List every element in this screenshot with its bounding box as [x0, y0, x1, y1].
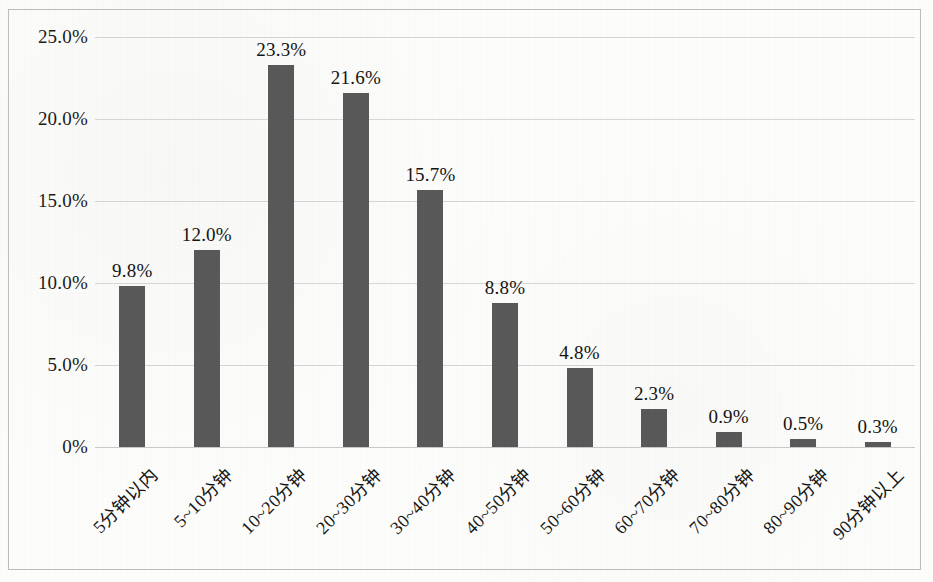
bar[interactable] — [716, 432, 742, 447]
y-axis-tick-label: 10.0% — [38, 272, 88, 294]
bar[interactable] — [268, 65, 294, 447]
x-axis-tick-label: 80~90分钟 — [756, 461, 834, 539]
bar-group[interactable]: 8.8% — [492, 37, 518, 447]
bar-group[interactable]: 23.3% — [268, 37, 294, 447]
bar-value-label: 0.3% — [858, 416, 898, 438]
bar[interactable] — [417, 190, 443, 447]
bar-group[interactable]: 12.0% — [194, 37, 220, 447]
x-axis-tick-label: 60~70分钟 — [607, 461, 685, 539]
bar-group[interactable]: 21.6% — [343, 37, 369, 447]
bar[interactable] — [343, 93, 369, 447]
bar[interactable] — [567, 368, 593, 447]
bar-value-label: 0.5% — [783, 413, 823, 435]
bar-value-label: 23.3% — [256, 39, 306, 61]
bar-group[interactable]: 0.9% — [716, 37, 742, 447]
x-axis-tick-label: 30~40分钟 — [383, 461, 461, 539]
x-axis-tick-label: 50~60分钟 — [532, 461, 610, 539]
bar-value-label: 21.6% — [331, 67, 381, 89]
bar-chart: 0%5.0%10.0%15.0%20.0%25.0% 9.8%12.0%23.3… — [0, 0, 933, 582]
bar-group[interactable]: 15.7% — [417, 37, 443, 447]
bar-value-label: 12.0% — [182, 224, 232, 246]
bar-group[interactable]: 0.3% — [865, 37, 891, 447]
bar-value-label: 9.8% — [112, 260, 152, 282]
bar[interactable] — [492, 303, 518, 447]
y-axis-tick-label: 0% — [62, 436, 88, 458]
x-axis: 5分钟以内5~10分钟10~20分钟20~30分钟30~40分钟40~50分钟5… — [95, 447, 915, 567]
bar[interactable] — [790, 439, 816, 447]
x-axis-tick-label: 70~80分钟 — [681, 461, 759, 539]
y-axis-tick-label: 15.0% — [38, 190, 88, 212]
bar-value-label: 4.8% — [559, 342, 599, 364]
bar-value-label: 8.8% — [485, 277, 525, 299]
bar-value-label: 15.7% — [405, 164, 455, 186]
y-axis: 0%5.0%10.0%15.0%20.0%25.0% — [20, 37, 88, 447]
y-axis-tick-label: 20.0% — [38, 108, 88, 130]
y-axis-tick-label: 25.0% — [38, 26, 88, 48]
x-axis-tick-label: 40~50分钟 — [458, 461, 536, 539]
plot-area: 9.8%12.0%23.3%21.6%15.7%8.8%4.8%2.3%0.9%… — [95, 37, 915, 447]
bar-value-label: 2.3% — [634, 383, 674, 405]
bar[interactable] — [119, 286, 145, 447]
y-axis-tick-label: 5.0% — [48, 354, 88, 376]
x-axis-tick-label: 20~30分钟 — [309, 461, 387, 539]
bar[interactable] — [641, 409, 667, 447]
x-axis-tick-label: 5分钟以内 — [86, 461, 163, 538]
x-axis-tick-label: 5~10分钟 — [166, 461, 237, 532]
bar-group[interactable]: 0.5% — [790, 37, 816, 447]
bar-group[interactable]: 2.3% — [641, 37, 667, 447]
x-axis-tick-label: 10~20分钟 — [234, 461, 312, 539]
bar-group[interactable]: 9.8% — [119, 37, 145, 447]
x-axis-tick-label: 90分钟以上 — [825, 461, 908, 544]
bar-group[interactable]: 4.8% — [567, 37, 593, 447]
bar[interactable] — [194, 250, 220, 447]
bar-value-label: 0.9% — [708, 406, 748, 428]
